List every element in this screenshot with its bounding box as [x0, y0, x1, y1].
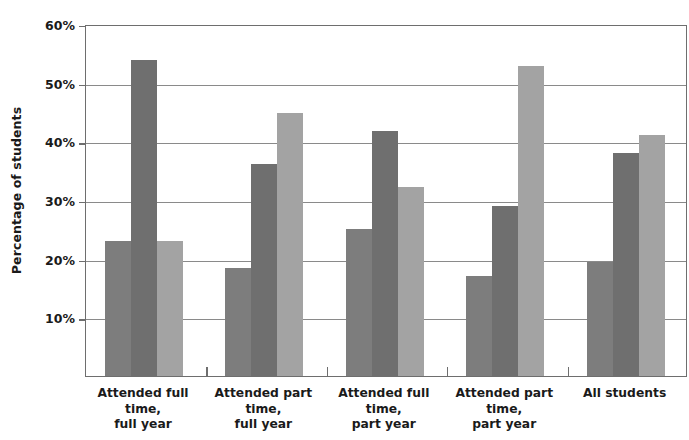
bar-chart: Percentage of students 60%50%40%30%20%10…	[0, 0, 689, 440]
bar[interactable]	[157, 241, 183, 376]
bar[interactable]	[466, 276, 492, 376]
bar[interactable]	[225, 268, 251, 376]
y-axis-tickmark	[79, 202, 86, 203]
y-axis-tick-label: 30%	[35, 194, 75, 209]
bar[interactable]	[105, 241, 131, 376]
y-axis-tick-label: 10%	[35, 311, 75, 326]
y-axis-tickmark	[79, 261, 86, 262]
bars-layer	[86, 26, 686, 376]
y-axis-title: Percentage of students	[0, 0, 34, 380]
bar-group	[105, 26, 183, 376]
bar-group	[346, 26, 424, 376]
x-axis-tick-labels: Attended full time,full yearAttended par…	[85, 386, 687, 426]
x-axis-tick-label: All students	[564, 386, 684, 402]
bar[interactable]	[398, 187, 424, 376]
category-tickmark	[327, 367, 328, 376]
x-axis-tick-label: Attended part time,full year	[203, 386, 323, 433]
bar-group	[225, 26, 303, 376]
bar[interactable]	[639, 135, 665, 376]
y-axis-tick-label: 40%	[35, 135, 75, 150]
y-axis-tick-label: 20%	[35, 252, 75, 267]
category-tickmark	[447, 367, 448, 376]
y-axis-tickmark	[79, 143, 86, 144]
bar[interactable]	[492, 206, 518, 376]
x-axis-tick-label: Attended part time,part year	[444, 386, 564, 433]
bar[interactable]	[251, 164, 277, 376]
y-axis-title-text: Percentage of students	[10, 106, 25, 273]
x-axis-tick-label: Attended full time,part year	[324, 386, 444, 433]
x-axis-tick-label: Attended full time,full year	[83, 386, 203, 433]
y-axis-tick-label: 50%	[35, 76, 75, 91]
bar[interactable]	[613, 153, 639, 376]
bar[interactable]	[346, 229, 372, 376]
bar[interactable]	[277, 113, 303, 376]
bar-group	[587, 26, 665, 376]
bar[interactable]	[131, 60, 157, 376]
y-axis-tickmark	[79, 26, 86, 27]
y-axis-tick-label: 60%	[35, 18, 75, 33]
y-axis-tickmark	[79, 319, 86, 320]
category-tickmark	[568, 367, 569, 376]
bar[interactable]	[587, 262, 613, 376]
bar[interactable]	[372, 131, 398, 376]
bar-group	[466, 26, 544, 376]
y-axis-tick-labels: 60%50%40%30%20%10%	[40, 0, 82, 400]
bar[interactable]	[518, 66, 544, 376]
y-axis-tickmark	[79, 85, 86, 86]
category-tickmark	[206, 367, 207, 376]
plot-area	[85, 25, 687, 377]
